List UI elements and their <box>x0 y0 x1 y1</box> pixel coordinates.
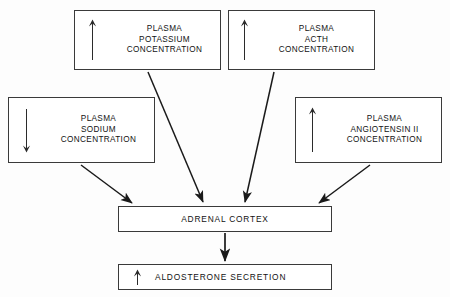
node-label: PLASMA POTASSIUM CONCENTRATION <box>109 24 220 56</box>
up-arrow-icon <box>296 107 328 153</box>
connector-acth-to-adrenal <box>245 72 274 202</box>
diagram-canvas: PLASMA POTASSIUM CONCENTRATION PLASMA AC… <box>0 0 450 297</box>
node-plasma-potassium: PLASMA POTASSIUM CONCENTRATION <box>74 10 221 70</box>
node-label: PLASMA SODIUM CONCENTRATION <box>43 114 154 146</box>
down-arrow-icon <box>9 107 43 153</box>
node-plasma-sodium: PLASMA SODIUM CONCENTRATION <box>8 97 155 163</box>
node-aldosterone-secretion: ALDOSTERONE SECRETION <box>118 264 332 290</box>
up-arrow-icon <box>75 19 109 61</box>
node-adrenal-cortex: ADRENAL CORTEX <box>118 206 332 232</box>
node-label: PLASMA ANGIOTENSIN II CONCENTRATION <box>328 114 441 146</box>
up-arrow-icon <box>119 269 155 286</box>
up-arrow-icon <box>229 19 259 61</box>
node-plasma-acth: PLASMA ACTH CONCENTRATION <box>228 10 375 70</box>
node-plasma-angiotensin-ii: PLASMA ANGIOTENSIN II CONCENTRATION <box>295 97 442 163</box>
node-label: ALDOSTERONE SECRETION <box>155 272 331 283</box>
connector-sodium-to-adrenal <box>81 165 132 203</box>
connector-angiotensin-to-adrenal <box>319 165 370 203</box>
connector-potassium-to-adrenal <box>148 72 203 202</box>
node-label: ADRENAL CORTEX <box>119 214 331 225</box>
node-label: PLASMA ACTH CONCENTRATION <box>259 24 374 56</box>
